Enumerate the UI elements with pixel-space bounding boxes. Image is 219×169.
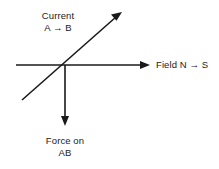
field-arrow-head [140,61,150,69]
field-label-line1: Field N → S [156,59,208,71]
current-label: Current A → B [20,10,96,33]
force-label: Force on AB [27,135,103,158]
force-arrow-head [61,116,69,126]
diagram-canvas: Current A → B Field N → S Force on AB [0,0,219,169]
field-label: Field N → S [156,59,208,71]
current-label-line1: Current [20,10,96,22]
field-arrow [16,61,150,69]
force-arrow [61,65,69,126]
force-label-line2: AB [27,147,103,159]
current-label-line2: A → B [20,22,96,34]
force-label-line1: Force on [27,135,103,147]
